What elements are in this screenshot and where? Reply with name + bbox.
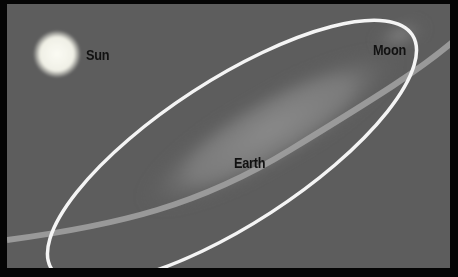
diagram-frame: Sun Moon Earth [0,0,458,277]
moon-label: Moon [373,41,406,58]
diagram-panel: Sun Moon Earth [7,4,450,268]
sun-shape [33,30,81,78]
earth-label: Earth [234,154,265,171]
sun-label: Sun [86,46,109,63]
